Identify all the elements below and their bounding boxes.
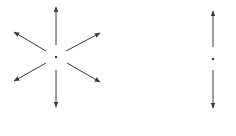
radial-star-figure	[14, 7, 100, 107]
center-dot	[55, 56, 57, 58]
arrow-down-left-icon	[14, 63, 46, 81]
arrow-up-left-icon	[14, 32, 46, 51]
center-dot	[212, 58, 214, 60]
arrow-up-right-icon	[66, 33, 100, 51]
arrow-down-right-icon	[67, 63, 100, 82]
vertical-double-arrow-figure	[212, 11, 214, 108]
diagram-canvas	[0, 0, 236, 136]
